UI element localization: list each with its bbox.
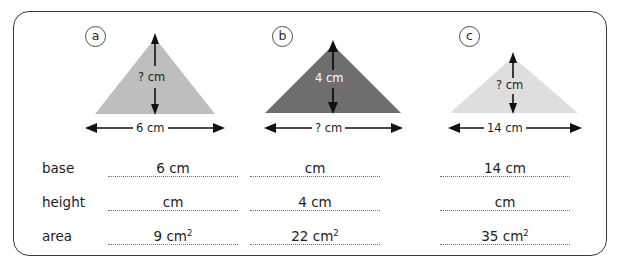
answer-area-c-text: 35 cm [481,228,523,244]
answer-base-b[interactable]: cm [250,158,380,178]
answer-area-a-text: 9 cm [154,228,187,244]
row-label-height: height [42,192,112,212]
answer-base-a-value: 6 cm [154,160,191,176]
answer-base-b-value: cm [303,160,328,176]
dotted-line [440,244,570,245]
answer-base-c-value: 14 cm [482,160,528,176]
answer-height-a[interactable]: cm [108,192,238,212]
base-arrow-c-lefttip [448,123,460,133]
table-row-base: base 6 cm cm 14 cm [0,158,624,188]
dotted-line [440,210,570,211]
answer-area-c-value: 35 cm2 [479,228,530,244]
dotted-line [250,210,380,211]
row-label-base: base [42,158,112,178]
dotted-line [250,244,380,245]
base-arrow-a-righttip [213,123,225,133]
worksheet-page: a ? cm 6 cm b [0,0,624,269]
height-label-b: 4 cm [315,71,344,85]
height-label-c: ? cm [496,78,523,92]
answer-height-a-value: cm [161,194,186,210]
figures-row: a ? cm 6 cm b [0,0,624,150]
figure-b: b 4 cm ? cm [245,0,430,150]
figure-c: c ? cm 14 cm [432,0,607,150]
answer-base-a[interactable]: 6 cm [108,158,238,178]
base-label-a: 6 cm [133,121,168,135]
figure-a: a ? cm 6 cm [60,0,240,150]
area-superscript: 2 [333,228,338,238]
height-arrow-a-uptip [151,33,159,44]
base-label-c: 14 cm [484,121,526,135]
base-arrow-b-lefttip [264,123,276,133]
height-label-a: ? cm [138,70,165,84]
dotted-line [108,176,238,177]
answer-area-a-value: 9 cm2 [152,228,195,244]
answer-height-c[interactable]: cm [440,192,570,212]
answer-area-b[interactable]: 22 cm2 [250,226,380,246]
answer-base-c[interactable]: 14 cm [440,158,570,178]
height-arrow-b-uptip [328,40,338,52]
height-arrow-c-uptip [509,52,517,63]
answer-height-b-value: 4 cm [296,194,333,210]
dotted-line [250,176,380,177]
answer-area-a[interactable]: 9 cm2 [108,226,238,246]
area-superscript: 2 [523,228,528,238]
base-arrow-c-righttip [570,123,582,133]
answer-area-c[interactable]: 35 cm2 [440,226,570,246]
answer-area-b-value: 22 cm2 [289,228,340,244]
answer-table: base 6 cm cm 14 cm height cm 4 [0,152,624,262]
dotted-line [108,210,238,211]
base-label-b: ? cm [312,121,345,135]
area-superscript: 2 [187,228,192,238]
answer-area-b-text: 22 cm [291,228,333,244]
row-label-area: area [42,226,112,246]
dotted-line [108,244,238,245]
table-row-height: height cm 4 cm cm [0,192,624,222]
answer-height-b[interactable]: 4 cm [250,192,380,212]
table-row-area: area 9 cm2 22 cm2 35 cm2 [0,226,624,256]
dotted-line [440,176,570,177]
answer-height-c-value: cm [493,194,518,210]
base-arrow-b-righttip [391,123,403,133]
base-arrow-a-lefttip [85,123,97,133]
